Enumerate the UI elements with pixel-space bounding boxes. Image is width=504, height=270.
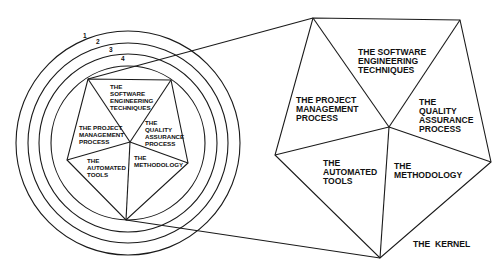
svg-text:TECHNIQUES: TECHNIQUES (110, 104, 151, 111)
svg-text:TOOLS: TOOLS (323, 176, 353, 186)
small-label-project-management: THE PROJECT MANAGEMENT PROCESS (79, 124, 124, 145)
ring-label-2: 2 (96, 38, 100, 45)
svg-text:PROCESS: PROCESS (296, 113, 338, 123)
svg-text:ASSURANCE: ASSURANCE (145, 133, 184, 140)
svg-text:THE: THE (87, 157, 99, 164)
svg-text:PROCESS: PROCESS (419, 124, 461, 134)
ring-label-4: 4 (121, 55, 125, 62)
svg-text:METHODOLOGY: METHODOLOGY (134, 161, 184, 168)
svg-text:ENGINEERING: ENGINEERING (110, 97, 154, 104)
zoom-connector-top (88, 18, 313, 79)
svg-text:SOFTWARE: SOFTWARE (110, 90, 145, 97)
small-label-quality-assurance: THE QUALITY ASSURANCE PROCESS (145, 119, 184, 147)
large-label-quality-assurance: THE QUALITY ASSURANCE PROCESS (419, 97, 474, 134)
svg-text:THE PROJECT: THE PROJECT (79, 124, 123, 131)
kernel-label: THE KERNEL (413, 239, 470, 249)
large-label-automated-tools: THE AUTOMATED TOOLS (323, 158, 377, 186)
svg-text:TECHNIQUES: TECHNIQUES (358, 65, 415, 75)
svg-text:AUTOMATED: AUTOMATED (87, 164, 126, 171)
ring-label-3: 3 (109, 46, 113, 53)
zoom-connector-bottom (126, 220, 380, 258)
ring-label-1: 1 (83, 32, 87, 39)
svg-text:METHODOLOGY: METHODOLOGY (394, 170, 463, 180)
small-label-methodology: THE METHODOLOGY (134, 154, 184, 168)
small-label-software-engineering: THE SOFTWARE ENGINEERING TECHNIQUES (110, 83, 154, 111)
large-label-methodology: THE METHODOLOGY (394, 161, 463, 180)
svg-text:PROCESS: PROCESS (145, 140, 175, 147)
small-label-automated-tools: THE AUTOMATED TOOLS (87, 157, 126, 178)
svg-text:THE: THE (134, 154, 146, 161)
svg-text:THE: THE (145, 119, 157, 126)
svg-text:MANAGEMENT: MANAGEMENT (79, 131, 124, 138)
svg-text:TOOLS: TOOLS (87, 171, 108, 178)
large-label-software-engineering: THE SOFTWARE ENGINEERING TECHNIQUES (358, 47, 427, 75)
large-label-project-management: THE PROJECT MANAGEMENT PROCESS (296, 95, 359, 123)
svg-text:PROCESS: PROCESS (79, 138, 109, 145)
svg-text:QUALITY: QUALITY (145, 126, 173, 133)
svg-text:THE: THE (110, 83, 122, 90)
kernel-diagram: 1 2 3 4 THE SOFTWARE ENGINEERING TECHNIQ… (0, 0, 504, 270)
